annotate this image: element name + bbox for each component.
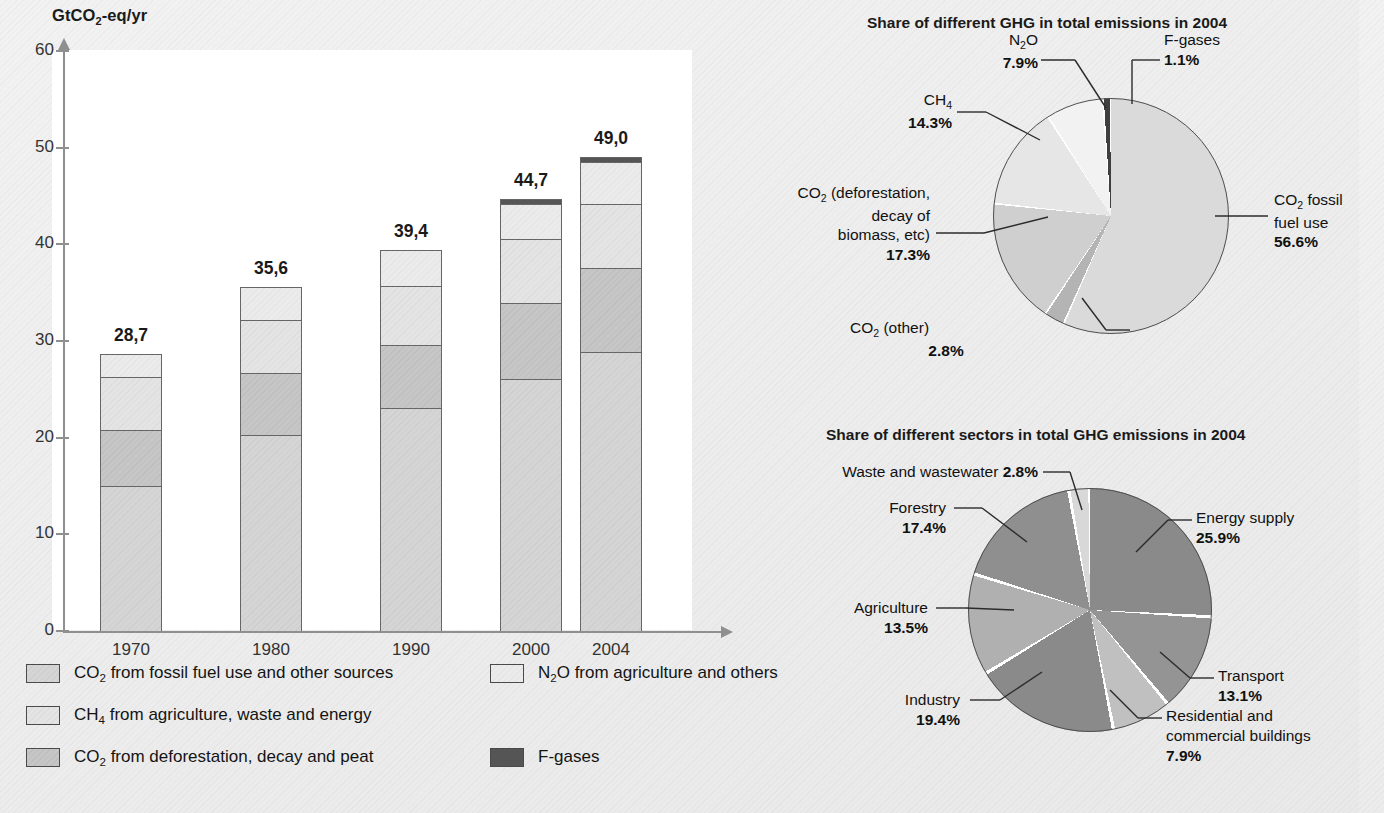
y-tick-label: 60: [14, 40, 54, 60]
x-axis-label-2004: 2004: [551, 640, 671, 660]
pie1-n2o-value: 7.9%: [1003, 54, 1038, 71]
bar-segment: [580, 352, 642, 631]
bar-segment: [380, 286, 442, 345]
legend-swatch: [490, 664, 524, 683]
legend-label: CO2 from deforestation, decay and peat: [74, 747, 373, 768]
pie2-panel: Share of different sectors in total GHG …: [790, 400, 1359, 813]
pie1-co2def-line1: CO2 (deforestation,: [798, 184, 931, 201]
y-tick-label: 10: [14, 523, 54, 543]
bar-total-label: 39,4: [351, 221, 471, 242]
bar-segment: [580, 162, 642, 204]
pie1-ch4-value: 14.3%: [908, 114, 952, 131]
pie2-label-agriculture: Agriculture 13.5%: [780, 598, 928, 638]
pie1-co2def-line3: biomass, etc): [838, 226, 930, 243]
pie1-label-co2-deforestation: CO2 (deforestation, decay of biomass, et…: [730, 183, 930, 265]
bar-total-label: 49,0: [551, 128, 671, 149]
bar-total-label: 44,7: [471, 170, 591, 191]
pie1-panel: Share of different GHG in total emission…: [860, 0, 1359, 400]
pie2-residential-line1: Residential and: [1166, 707, 1273, 724]
bar-1990: 39,4: [380, 250, 442, 631]
x-axis-arrow: [721, 626, 733, 638]
y-tick-mark: [56, 50, 69, 52]
pie2-agriculture-name: Agriculture: [854, 599, 928, 616]
bar-segment: [580, 268, 642, 352]
pie2-label-waste: Waste and wastewater 2.8%: [770, 462, 1038, 482]
pie1-co2other-value: 2.8%: [762, 341, 1130, 361]
bar-segment: [240, 435, 302, 631]
pie1-fgases-name: F-gases: [1164, 31, 1220, 48]
bar-2004: 49,0: [580, 157, 642, 631]
legend-label: CH4 from agriculture, waste and energy: [74, 705, 371, 726]
bar-segment: [240, 320, 302, 373]
bar-segment: [380, 250, 442, 286]
pie1-n2o-name: N2O: [1009, 31, 1038, 48]
pie2-agriculture-value: 13.5%: [884, 619, 928, 636]
pie2-waste-value: 2.8%: [1003, 463, 1038, 480]
y-tick-label: 20: [14, 427, 54, 447]
bar-segment: [500, 204, 562, 239]
pie1-label-ch4: CH4 14.3%: [820, 90, 952, 132]
bar-segment: [100, 430, 162, 486]
y-tick-mark: [56, 243, 69, 245]
bar-1980: 35,6: [240, 287, 302, 631]
bar-segment: [500, 379, 562, 631]
y-tick-label: 30: [14, 330, 54, 350]
y-axis-title-text: GtCO2-eq/yr: [52, 6, 147, 24]
y-tick-mark: [56, 437, 69, 439]
legend-swatch: [26, 706, 60, 725]
y-tick-mark: [56, 340, 69, 342]
pie2-disc: [968, 488, 1212, 732]
legend-label: CO2 from fossil fuel use and other sourc…: [74, 663, 393, 684]
y-axis-title: GtCO2-eq/yr: [52, 6, 147, 27]
pie1-co2fossil-value: 56.6%: [1274, 233, 1318, 250]
bar-segment: [580, 204, 642, 268]
pie1-co2other-name: CO2 (other): [850, 319, 929, 336]
pie1-fgases-value: 1.1%: [1164, 51, 1199, 68]
bar-segment: [500, 239, 562, 304]
legend-label: F-gases: [538, 747, 599, 767]
legend-swatch: [26, 664, 60, 683]
pie2-label-energy: Energy supply 25.9%: [1196, 508, 1356, 548]
x-axis-line: [63, 631, 723, 633]
pie2-energy-value: 25.9%: [1196, 529, 1240, 546]
pie1-label-fgases: F-gases 1.1%: [1164, 30, 1304, 70]
pie2-label-forestry: Forestry 17.4%: [804, 498, 946, 538]
pie2-label-industry: Industry 19.4%: [810, 690, 960, 730]
pie1-co2def-value: 17.3%: [886, 246, 930, 263]
pie2-residential-value: 7.9%: [1166, 747, 1201, 764]
pie2-title: Share of different sectors in total GHG …: [826, 426, 1245, 444]
y-tick-label: 50: [14, 137, 54, 157]
legend-item: CO2 from fossil fuel use and other sourc…: [26, 663, 393, 684]
legend-swatch: [26, 748, 60, 767]
legend-item: F-gases: [490, 747, 599, 767]
pie2-residential-line2: commercial buildings: [1166, 727, 1311, 744]
bar-segment: [240, 287, 302, 320]
pie1-co2def-line2: decay of: [871, 207, 930, 224]
pie2-label-residential: Residential and commercial buildings 7.9…: [1166, 706, 1362, 765]
pie2-transport-name: Transport: [1218, 667, 1284, 684]
y-tick-label: 40: [14, 233, 54, 253]
legend-item: N2O from agriculture and others: [490, 663, 778, 684]
bar-segment: [100, 486, 162, 631]
bar-segment: [380, 408, 442, 631]
bar-segment: [100, 354, 162, 377]
pie1-label-co2-fossil: CO2 fossil fuel use 56.6%: [1274, 190, 1384, 252]
pie2-industry-value: 19.4%: [916, 711, 960, 728]
pie1-label-co2-other: CO2 (other) 2.8%: [850, 318, 1130, 360]
pie2-forestry-value: 17.4%: [902, 519, 946, 536]
bar-segment: [240, 373, 302, 435]
pie2-label-transport: Transport 13.1%: [1218, 666, 1358, 706]
legend-item: CO2 from deforestation, decay and peat: [26, 747, 373, 768]
pie1-label-n2o: N2O 7.9%: [880, 30, 1038, 72]
bar-total-label: 28,7: [71, 325, 191, 346]
pie1-disc: [993, 98, 1229, 334]
pie1-co2fossil-line1: CO2 fossil: [1274, 191, 1343, 208]
y-tick-label: 0: [14, 620, 54, 640]
pie2-energy-name: Energy supply: [1196, 509, 1294, 526]
legend-swatch: [490, 748, 524, 767]
pie2-forestry-name: Forestry: [889, 499, 946, 516]
legend-label: N2O from agriculture and others: [538, 663, 778, 684]
legend-item: CH4 from agriculture, waste and energy: [26, 705, 371, 726]
y-tick-mark: [56, 630, 69, 632]
x-axis-label-1990: 1990: [351, 640, 471, 660]
